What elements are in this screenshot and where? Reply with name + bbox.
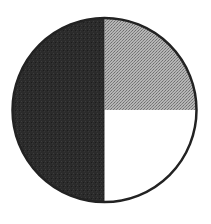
pie-slice-stippled-gray-slice	[105, 18, 197, 110]
pie-slice-white-slice	[105, 110, 197, 202]
pie-slice-dark-slice	[13, 18, 105, 202]
pie-chart	[0, 0, 211, 224]
